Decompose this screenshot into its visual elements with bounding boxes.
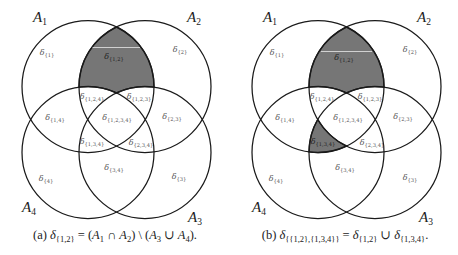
region-label-3: δ{3} — [172, 172, 187, 182]
region-label-1-4: δ{1,4} — [275, 113, 295, 123]
region-label-2-3-4: δ{2,3,4} — [360, 138, 385, 148]
region-label-3: δ{3} — [403, 173, 418, 183]
set-label-a1: A1 — [32, 9, 47, 27]
region-label-2: δ{2} — [403, 45, 418, 55]
region-label-1-2-4: δ{1,2,4} — [310, 92, 335, 102]
region-label-1-2-3-4: δ{1,2,3,4} — [102, 113, 132, 123]
caption-b: (b) δ{{1,2},{1,3,4}} = δ{1,2} ∪ δ{1,3,4}… — [262, 228, 429, 244]
set-label-a3: A3 — [418, 209, 433, 227]
set-label-a2: A2 — [186, 9, 201, 27]
region-label-1-2-3: δ{1,2,3} — [127, 92, 152, 102]
set-label-a4: A4 — [251, 199, 266, 217]
region-label-1-2-3: δ{1,2,3} — [358, 92, 383, 102]
region-label-1-4: δ{1,4} — [45, 113, 65, 123]
region-label-2-3: δ{2,3} — [162, 112, 182, 122]
region-label-1: δ{1} — [40, 48, 55, 58]
venn-figure: A1 A2 A3 A4 δ{1} δ{2} δ{1,2} δ{1,2,4} δ{… — [0, 0, 458, 255]
region-label-1: δ{1} — [270, 48, 285, 58]
set-label-a1: A1 — [262, 9, 277, 27]
caption-a: (a) δ{1,2} = (A1 ∩ A2) \ (A3 ∪ A4). — [33, 228, 197, 244]
region-label-4: δ{4} — [39, 174, 54, 184]
region-label-1-3-4: δ{1,3,4} — [80, 137, 105, 147]
set-label-a3: A3 — [187, 209, 202, 227]
region-label-3-4: δ{3,4} — [104, 163, 124, 173]
panel-b: A1 A2 A3 A4 δ{1} δ{2} δ{1,2} δ{1,2,4} δ{… — [251, 9, 441, 244]
region-label-2-3-4: δ{2,3,4} — [129, 138, 154, 148]
region-label-1-2-4: δ{1,2,4} — [80, 92, 105, 102]
panel-a: A1 A2 A3 A4 δ{1} δ{2} δ{1,2} δ{1,2,4} δ{… — [21, 9, 211, 244]
region-label-2: δ{2} — [173, 45, 188, 55]
set-label-a2: A2 — [416, 9, 431, 27]
region-label-4: δ{4} — [269, 174, 284, 184]
region-label-1-2-3-4: δ{1,2,3,4} — [333, 113, 363, 123]
set-label-a4: A4 — [21, 199, 36, 217]
region-label-2-3: δ{2,3} — [393, 112, 413, 122]
region-label-3-4: δ{3,4} — [335, 163, 355, 173]
